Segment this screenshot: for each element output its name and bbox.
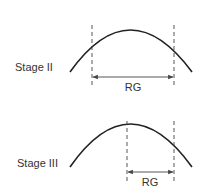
stage-diagram: Stage II RG Stage III RG [0, 0, 203, 192]
panel-stage-ii: Stage II RG [15, 25, 192, 93]
panel-stage-iii: Stage III RG [17, 121, 192, 188]
stage-iii-rg-label: RG [142, 176, 159, 188]
stage-ii-label: Stage II [15, 61, 53, 73]
stage-ii-curve [70, 30, 192, 72]
stage-ii-rg-label: RG [125, 81, 142, 93]
stage-iii-label: Stage III [17, 157, 58, 169]
